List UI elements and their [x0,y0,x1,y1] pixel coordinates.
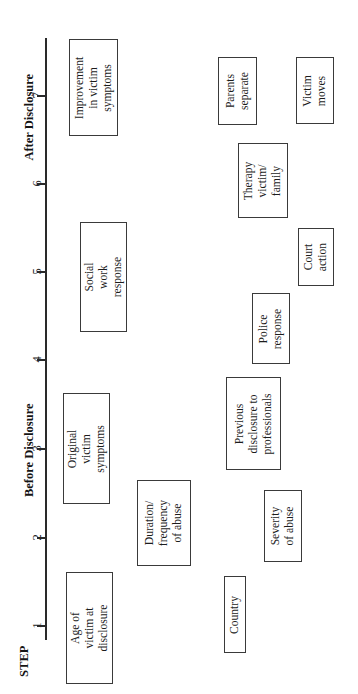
node-severity-of-abuse[interactable]: Severity of abuse [264,490,302,562]
node-label: Duration/ frequency of abuse [143,480,185,566]
disclosure-steps-diagram: 7 6 5 4 3 2 1 After Disclosure Before Di… [0,0,358,694]
node-label: Previous disclosure to professionals [232,377,274,470]
node-improvement-symptoms[interactable]: Improvement in victim symptoms [69,39,118,136]
axis-tick-label-1: 1 [31,612,44,638]
node-victim-moves[interactable]: Victim moves [296,57,334,124]
node-label: Severity of abuse [269,490,297,562]
node-previous-disclosure[interactable]: Previous disclosure to professionals [226,377,281,470]
node-duration-frequency[interactable]: Duration/ frequency of abuse [137,480,191,566]
axis-tick-label-4: 4 [31,346,44,372]
phase-label-before: Before Disclosure [23,387,36,513]
node-label: Parents separate [223,57,251,125]
node-label: Improvement in victim symptoms [72,39,114,136]
node-police-response[interactable]: Police response [252,293,290,364]
node-label: Police response [257,293,285,364]
node-social-work-response[interactable]: Social work response [80,222,127,332]
node-label: Victim moves [301,57,329,124]
node-country[interactable]: Country [224,576,246,653]
node-age-of-victim[interactable]: Age of victim at disclosure [66,572,113,684]
axis-tick-label-5: 5 [31,258,44,284]
node-label: Age of victim at disclosure [68,572,110,684]
axis-tick-label-2: 2 [31,524,44,550]
node-parents-separate[interactable]: Parents separate [218,57,257,125]
node-label: Court action [302,228,330,286]
node-original-symptoms[interactable]: Original victim symptoms [63,393,110,504]
phase-label-after: After Disclosure [23,59,36,175]
node-label: Country [228,576,242,653]
node-label: Social work response [82,222,124,332]
node-court-action[interactable]: Court action [298,228,334,286]
node-label: Therapy victim/ family [242,143,284,218]
node-label: Original victim symptoms [65,393,107,504]
node-therapy-victim-family[interactable]: Therapy victim/ family [238,143,288,218]
step-axis-line [45,38,47,640]
step-axis-title: STEP [18,640,31,682]
